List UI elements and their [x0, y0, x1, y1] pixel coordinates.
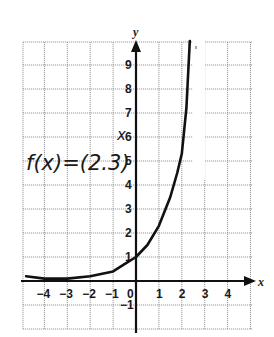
equation-exponent: x	[116, 126, 126, 144]
y-tick-label: 8	[125, 82, 132, 96]
x-tick-label: 4	[225, 287, 232, 301]
y-tick-label: 9	[125, 58, 132, 72]
x-tick-label: −2	[82, 287, 96, 301]
x-tick-label: −4	[36, 287, 50, 301]
y-tick-label: 4	[125, 178, 132, 192]
y-tick-label: −1	[120, 298, 134, 312]
grid-lines	[23, 42, 252, 329]
x-tick-label: 1	[156, 287, 163, 301]
y-tick-label: 3	[125, 202, 132, 216]
equation-text: f(x)=(2.3)	[26, 151, 130, 175]
x-tick-label: 3	[202, 287, 209, 301]
x-tick-label: −1	[105, 287, 119, 301]
x-tick-label: 2	[179, 287, 186, 301]
y-tick-label: 6	[125, 130, 132, 144]
graph-worksheet: yx −4−3−2−101234−1123456789 f(x)=(2.3)x	[0, 0, 274, 337]
handwritten-equation: f(x)=(2.3)x	[26, 126, 130, 176]
y-tick-label: 7	[125, 106, 132, 120]
x-tick-label: −3	[59, 287, 73, 301]
coordinate-plane: yx −4−3−2−101234−1123456789 f(x)=(2.3)x	[0, 0, 274, 337]
x-axis-label: x	[257, 275, 264, 289]
y-tick-label: 2	[125, 226, 132, 240]
y-axis-label: y	[131, 25, 139, 39]
